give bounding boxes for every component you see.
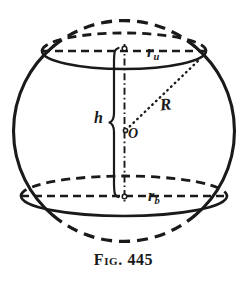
lower-circle-center-point	[122, 194, 127, 199]
upper-circle-center-point	[122, 46, 127, 51]
sphere-outline-right-solid	[195, 47, 235, 216]
label-upper-radius-subscript: u	[153, 51, 159, 62]
sphere-outline-top-dashed	[53, 21, 195, 47]
sphere-center-point-O	[123, 128, 127, 132]
height-brace	[110, 48, 119, 197]
label-lower-radius-subscript: b	[154, 195, 159, 206]
label-upper-radius: ru	[147, 44, 159, 60]
label-sphere-radius: R	[159, 95, 172, 113]
sphere-outline-bottom-dashed	[53, 216, 195, 242]
label-center-point: O	[128, 127, 138, 141]
spherical-zone-diagram	[0, 0, 247, 283]
figure-caption: Fig. 445	[0, 251, 247, 269]
sphere-outline-left-solid	[14, 47, 54, 216]
figure-container: ru rb h R O Fig. 445	[0, 0, 247, 283]
label-height: h	[94, 110, 103, 126]
label-lower-radius: rb	[148, 188, 160, 204]
